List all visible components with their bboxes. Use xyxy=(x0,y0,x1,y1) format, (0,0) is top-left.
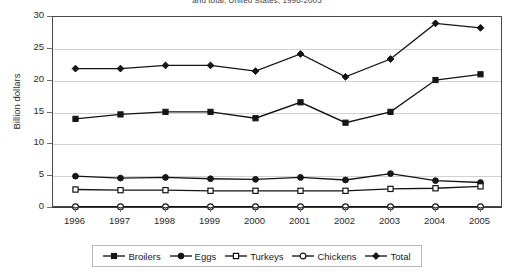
point-eggs-1999 xyxy=(208,176,214,182)
legend-label-chickens: Chickens xyxy=(317,251,356,262)
y-tick-label-15: 15 xyxy=(14,106,44,116)
point-turkeys-2004 xyxy=(433,186,438,191)
point-broilers-2001 xyxy=(298,100,303,105)
point-eggs-2000 xyxy=(253,176,259,182)
x-tick-label-2004: 2004 xyxy=(412,215,458,226)
x-tick-mark-1999 xyxy=(210,207,211,212)
legend-label-turkeys: Turkeys xyxy=(250,251,283,262)
point-turkeys-1999 xyxy=(208,188,213,193)
y-tick-label-0: 0 xyxy=(14,201,44,211)
x-tick-mark-2000 xyxy=(255,207,256,212)
plot-area xyxy=(52,16,502,207)
point-turkeys-1998 xyxy=(163,188,168,193)
point-eggs-2003 xyxy=(388,171,394,177)
x-tick-label-1998: 1998 xyxy=(142,215,188,226)
point-total-1998 xyxy=(162,62,169,69)
point-total-1996 xyxy=(72,65,79,72)
series-eggs xyxy=(73,171,484,186)
x-tick-mark-2004 xyxy=(435,207,436,212)
point-broilers-1999 xyxy=(208,109,213,114)
y-tick-label-25: 25 xyxy=(14,42,44,52)
x-tick-mark-2003 xyxy=(390,207,391,212)
point-turkeys-2003 xyxy=(388,186,393,191)
x-tick-mark-2005 xyxy=(480,207,481,212)
y-tick-label-5: 5 xyxy=(14,169,44,179)
point-broilers-2002 xyxy=(343,120,348,125)
y-tick-label-30: 30 xyxy=(14,10,44,20)
point-total-2000 xyxy=(252,68,259,75)
chart-legend: BroilersEggsTurkeysChickensTotal xyxy=(92,245,422,267)
x-tick-label-2001: 2001 xyxy=(277,215,323,226)
x-tick-mark-1996 xyxy=(75,207,76,212)
point-total-2005 xyxy=(477,24,484,31)
series-turkeys xyxy=(73,184,483,194)
legend-item-total[interactable]: Total xyxy=(365,251,410,262)
x-tick-label-1999: 1999 xyxy=(187,215,233,226)
y-tick-label-10: 10 xyxy=(14,137,44,147)
point-eggs-2001 xyxy=(298,175,304,181)
legend-marker-broilers-icon xyxy=(103,251,125,261)
chart-title: and total, United States, 1996-2005 xyxy=(0,0,514,6)
data-series-layer xyxy=(53,17,503,208)
point-broilers-2005 xyxy=(478,72,483,77)
legend-marker-turkeys-icon xyxy=(225,251,247,261)
line-broilers xyxy=(76,74,481,122)
x-tick-mark-1997 xyxy=(120,207,121,212)
x-tick-label-1996: 1996 xyxy=(52,215,98,226)
legend-marker-chickens-icon xyxy=(292,251,314,261)
legend-item-turkeys[interactable]: Turkeys xyxy=(225,251,283,262)
point-eggs-1997 xyxy=(118,175,124,181)
series-total xyxy=(72,20,484,80)
point-turkeys-1997 xyxy=(118,188,123,193)
point-total-2001 xyxy=(297,51,304,58)
point-total-1997 xyxy=(117,65,124,72)
point-total-1999 xyxy=(207,62,214,69)
legend-item-chickens[interactable]: Chickens xyxy=(292,251,356,262)
point-turkeys-2001 xyxy=(298,188,303,193)
x-tick-label-2003: 2003 xyxy=(367,215,413,226)
legend-label-eggs: Eggs xyxy=(195,251,217,262)
point-eggs-1998 xyxy=(163,175,169,181)
point-total-2002 xyxy=(342,73,349,80)
point-turkeys-2005 xyxy=(478,184,483,189)
legend-item-broilers[interactable]: Broilers xyxy=(103,251,160,262)
x-tick-mark-2001 xyxy=(300,207,301,212)
y-tick-label-20: 20 xyxy=(14,74,44,84)
x-tick-mark-1998 xyxy=(165,207,166,212)
point-eggs-1996 xyxy=(73,173,79,179)
legend-marker-total-icon xyxy=(365,251,387,261)
point-eggs-2002 xyxy=(343,177,349,183)
point-broilers-1998 xyxy=(163,109,168,114)
x-tick-mark-2002 xyxy=(345,207,346,212)
point-broilers-1996 xyxy=(73,116,78,121)
line-turkeys xyxy=(76,186,481,190)
line-eggs xyxy=(76,174,481,183)
chart-container: and total, United States, 1996-2005 Bill… xyxy=(0,0,514,279)
x-tick-label-1997: 1997 xyxy=(97,215,143,226)
line-total xyxy=(76,23,481,76)
point-eggs-2004 xyxy=(433,178,439,184)
point-turkeys-2000 xyxy=(253,188,258,193)
point-broilers-2004 xyxy=(433,77,438,82)
x-tick-label-2005: 2005 xyxy=(457,215,503,226)
x-tick-label-2000: 2000 xyxy=(232,215,278,226)
series-broilers xyxy=(73,72,483,126)
point-broilers-1997 xyxy=(118,112,123,117)
x-tick-label-2002: 2002 xyxy=(322,215,368,226)
legend-label-broilers: Broilers xyxy=(128,251,160,262)
point-broilers-2003 xyxy=(388,109,393,114)
point-turkeys-2002 xyxy=(343,188,348,193)
point-broilers-2000 xyxy=(253,116,258,121)
legend-marker-eggs-icon xyxy=(170,251,192,261)
point-turkeys-1996 xyxy=(73,187,78,192)
legend-item-eggs[interactable]: Eggs xyxy=(170,251,217,262)
legend-label-total: Total xyxy=(390,251,410,262)
